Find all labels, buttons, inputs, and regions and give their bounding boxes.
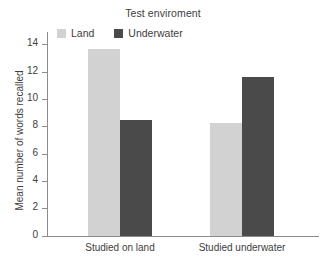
y-tick: 14 xyxy=(42,44,47,45)
y-axis-title: Mean number of words recalled xyxy=(14,41,25,241)
x-axis-line xyxy=(47,236,319,237)
y-tick: 6 xyxy=(42,154,47,155)
chart-title: Test enviroment xyxy=(0,7,326,19)
y-tick-label: 6 xyxy=(32,147,38,158)
y-tick: 4 xyxy=(42,181,47,182)
bar-chart-figure: Test enviroment Land Underwater Mean num… xyxy=(0,0,326,265)
plot-area: 02468101214 Studied on landStudied under… xyxy=(47,32,319,237)
y-axis-line xyxy=(47,32,48,237)
bar xyxy=(120,120,152,236)
bar xyxy=(210,123,242,236)
bar xyxy=(242,77,274,236)
bar xyxy=(88,49,120,236)
y-tick-label: 14 xyxy=(27,37,38,48)
y-tick: 2 xyxy=(42,208,47,209)
y-tick-label: 12 xyxy=(27,65,38,76)
y-tick-label: 8 xyxy=(32,119,38,130)
y-tick: 10 xyxy=(42,99,47,100)
y-tick-label: 2 xyxy=(32,201,38,212)
y-tick-label: 10 xyxy=(27,92,38,103)
y-tick-label: 0 xyxy=(32,229,38,240)
y-tick: 8 xyxy=(42,126,47,127)
x-category-label: Studied on land xyxy=(62,242,178,253)
y-tick: 0 xyxy=(42,236,47,237)
x-category-label: Studied underwater xyxy=(184,242,300,253)
y-tick: 12 xyxy=(42,72,47,73)
y-tick-label: 4 xyxy=(32,174,38,185)
